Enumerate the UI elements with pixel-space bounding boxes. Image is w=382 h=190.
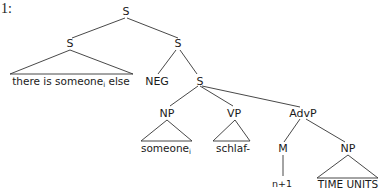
- leaf-schlaf: schlaf-: [216, 143, 250, 154]
- leaf-n-plus-1: n+1: [272, 178, 292, 189]
- node-lower-s: S: [197, 76, 204, 87]
- leaf-time-units: TIME UNITS: [318, 179, 378, 190]
- node-advp-np: NP: [341, 143, 356, 154]
- node-root-s: S: [123, 6, 130, 17]
- example-number: 1:: [1, 1, 12, 17]
- node-left-s: S: [67, 38, 74, 49]
- leaf-someone: someonei: [141, 143, 191, 158]
- node-np: NP: [160, 108, 175, 119]
- node-neg: NEG: [145, 76, 169, 87]
- tree-branches: [0, 0, 382, 190]
- node-right-s: S: [175, 38, 182, 49]
- node-m: M: [278, 143, 288, 154]
- leaf-there-is-someone-else: there is someonei else: [12, 76, 130, 91]
- node-vp: VP: [227, 108, 241, 119]
- node-advp: AdvP: [289, 108, 316, 119]
